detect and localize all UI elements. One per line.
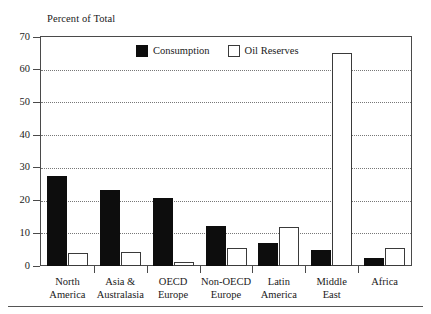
legend-label: Oil Reserves [245,46,299,57]
x-axis-category-tick [94,266,95,273]
legend-label: Consumption [153,46,210,57]
x-axis-category-label: Africa [350,276,419,289]
bar-consumption [153,198,173,266]
bar-consumption [311,250,331,266]
legend-item-oil-reserves: Oil Reserves [228,45,299,57]
bar-oil-reserves [121,252,141,266]
bar-consumption [206,226,226,266]
bar-oil-reserves [174,262,194,266]
bar-consumption [258,243,278,266]
bottom-divider [8,306,423,307]
y-axis-tick [33,200,40,201]
bar-oil-reserves [227,248,247,266]
y-axis-tick [33,37,40,38]
cropped-header-text [0,0,431,7]
y-axis-tick-label: 50 [0,97,30,108]
category-label-line2: East [297,289,366,302]
hollow-square-icon [228,45,240,57]
x-axis-category-tick [358,266,359,273]
bar-oil-reserves [332,53,352,266]
bar-consumption [47,176,67,266]
y-axis-tick-label: 70 [0,31,30,42]
x-axis-category-tick [252,266,253,273]
y-axis-tick [33,102,40,103]
bar-oil-reserves [68,253,88,266]
bars-layer [41,37,411,266]
bar-consumption [364,258,384,266]
y-axis-tick-label: 20 [0,195,30,206]
legend-item-consumption: Consumption [136,45,210,57]
x-axis-category-tick [305,266,306,273]
y-axis-tick [33,266,40,267]
bar-oil-reserves [385,248,405,266]
y-axis-tick-label: 0 [0,260,30,271]
category-label-line1: Africa [350,276,419,289]
y-axis-tick-label: 10 [0,228,30,239]
filled-square-icon [136,45,148,57]
y-axis-tick [33,167,40,168]
y-axis-caption: Percent of Total [47,13,115,24]
y-axis-tick [33,69,40,70]
y-axis-tick [33,233,40,234]
y-axis-tick-label: 40 [0,129,30,140]
x-axis-category-tick [147,266,148,273]
bar-oil-reserves [279,227,299,266]
y-axis-tick [33,135,40,136]
y-axis-tick-label: 30 [0,162,30,173]
y-axis-tick-label: 60 [0,64,30,75]
x-axis-category-tick [200,266,201,273]
chart-legend: ConsumptionOil Reserves [136,45,299,57]
bar-consumption [100,190,120,266]
